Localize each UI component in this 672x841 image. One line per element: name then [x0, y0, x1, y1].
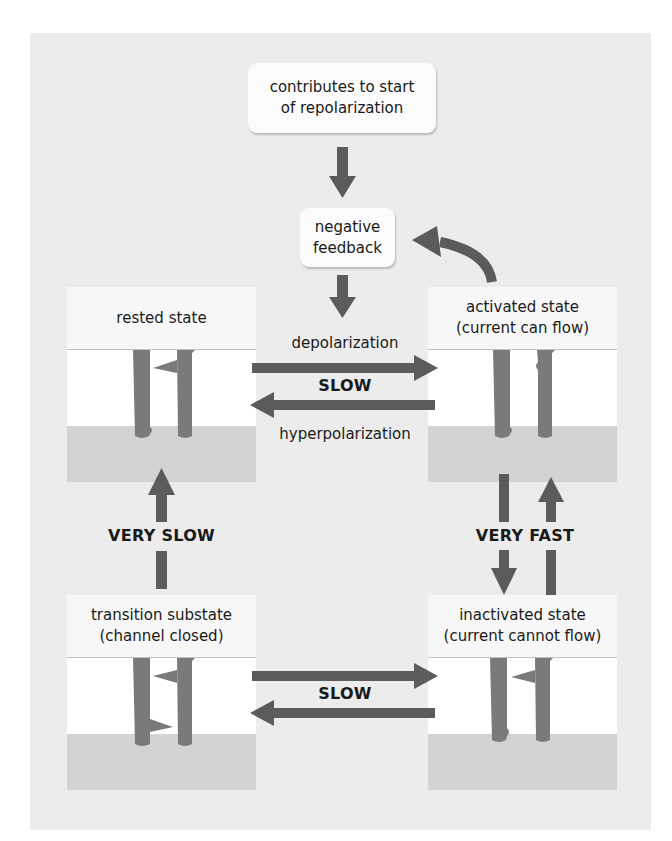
- ion-channel-rested: [133, 350, 195, 438]
- slow-label-top: SLOW: [255, 376, 435, 395]
- very-fast-label: VERY FAST: [445, 526, 605, 545]
- very-slow-label: VERY SLOW: [80, 526, 243, 545]
- ion-channel-inactivated: [490, 658, 553, 742]
- diagram-graphics: [0, 0, 672, 841]
- arrow-left-icon: [250, 392, 435, 418]
- arrow-left-icon: [250, 700, 435, 726]
- ion-channel-transition: [133, 658, 195, 746]
- curved-feedback-arrow-icon: [412, 226, 492, 282]
- hyperpolarization-label: hyperpolarization: [255, 425, 435, 443]
- arrow-down-icon: [329, 147, 356, 198]
- depolarization-label: depolarization: [255, 334, 435, 352]
- arrow-down-icon: [329, 275, 356, 318]
- ion-channel-activated: [493, 350, 555, 438]
- slow-label-bottom: SLOW: [255, 684, 435, 703]
